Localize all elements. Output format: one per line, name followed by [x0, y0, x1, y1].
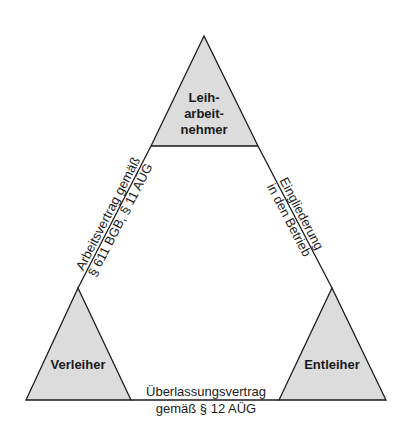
node-label-line: Leih- — [188, 90, 219, 105]
node-label-line: arbeit- — [184, 106, 224, 121]
triangle-shape — [279, 288, 386, 400]
edge-label-integration: Eingliederung in den Betrieb — [264, 174, 327, 259]
edge-label-line: gemäß § 12 AÜG — [156, 401, 256, 416]
node-label-line: nehmer — [181, 122, 228, 137]
node-leiharbeitnehmer: Leih- arbeit- nehmer — [151, 36, 258, 146]
node-label-line: Verleiher — [51, 357, 106, 372]
edge-label-employment-contract: Arbeitsvertrag gemäß § 611 BGB, § 11 AÜG — [73, 154, 156, 279]
node-label-line: Entleiher — [304, 357, 360, 372]
triangle-shape — [26, 288, 131, 400]
edge-label-line: Überlassungsvertrag — [146, 384, 266, 399]
node-entleiher: Entleiher — [279, 288, 386, 400]
node-verleiher: Verleiher — [26, 288, 131, 400]
three-party-diagram: Leih- arbeit- nehmer Verleiher Entleiher… — [0, 0, 408, 439]
